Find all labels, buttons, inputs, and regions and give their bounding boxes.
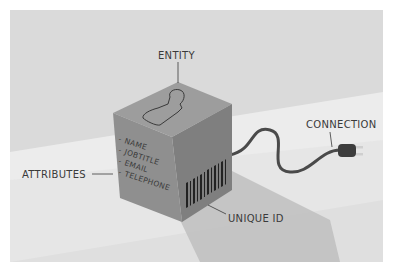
unique-id-label: UNIQUE ID	[228, 213, 284, 224]
diagram-frame: - NAME - JOBTITLE - EMAIL - TELEPHONE	[10, 10, 383, 262]
entity-diagram: - NAME - JOBTITLE - EMAIL - TELEPHONE	[10, 10, 383, 262]
entity-label: ENTITY	[158, 50, 195, 61]
connection-label: CONNECTION	[306, 119, 377, 130]
attributes-label: ATTRIBUTES	[22, 169, 86, 180]
